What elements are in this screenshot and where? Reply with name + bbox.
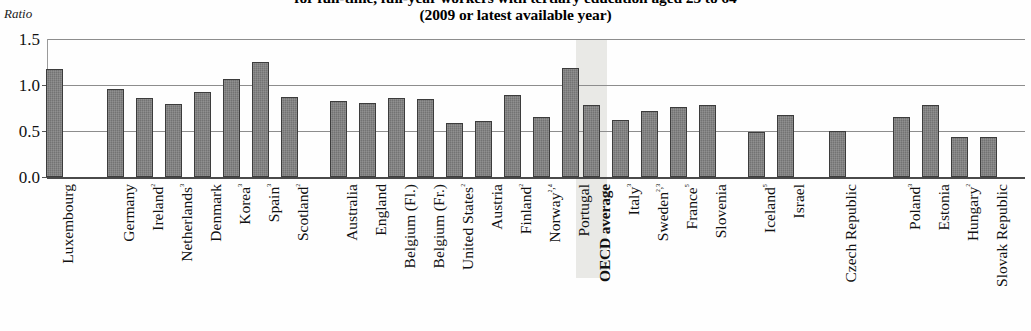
x-axis-label-czech-republic: Czech Republic (843, 184, 859, 283)
x-axis-label-sweden: Sweden²,³ (655, 184, 671, 241)
x-axis-label-france: France⁵ (684, 184, 700, 229)
x-axis-label-portugal: Portugal (576, 184, 592, 237)
x-axis-label-poland: Poland³ (907, 184, 923, 230)
bar-chart: for full-time, full-year workers with te… (0, 0, 1031, 331)
x-axis-label-luxembourg: Luxembourg (60, 184, 76, 264)
x-axis-label-italy: Italy³ (626, 184, 642, 215)
x-axis-label-norway: Norway²,⁴ (547, 184, 563, 242)
x-axis-label-ireland: Ireland² (150, 184, 166, 231)
x-axis-label-israel: Israel (791, 184, 807, 218)
x-axis-label-belgium-fl: Belgium (Fl.) (402, 184, 418, 268)
x-axis-label-england: England (373, 184, 389, 236)
x-axis-label-austria: Austria (489, 184, 505, 230)
x-axis-label-australia: Australia (344, 184, 360, 241)
x-axis-label-iceland: Iceland⁵ (762, 184, 778, 233)
x-axis-label-oecd-average: OECD average (597, 184, 613, 282)
x-axis-label-germany: Germany (121, 184, 137, 242)
x-axis-label-korea: Korea³ (237, 184, 253, 225)
x-axis-label-denmark: Denmark (208, 184, 224, 242)
x-axis-label-hungary: Hungary² (965, 184, 981, 241)
x-axis-labels-group: LuxembourgGermanyIreland²Netherlands³Den… (0, 0, 1031, 331)
x-axis-label-belgium-fr: Belgium (Fr.) (431, 184, 447, 268)
x-axis-label-scotland: Scotland² (295, 184, 311, 241)
x-axis-label-slovenia: Slovenia (713, 184, 729, 238)
x-axis-label-spain: Spain³ (266, 184, 282, 222)
x-axis-label-united-states: United States² (460, 184, 476, 270)
x-axis-label-estonia: Estonia (936, 184, 952, 231)
x-axis-label-slovak-republic: Slovak Republic (994, 184, 1010, 287)
x-axis-label-netherlands: Netherlands³ (179, 184, 195, 262)
x-axis-label-finland: Finland² (518, 184, 534, 234)
